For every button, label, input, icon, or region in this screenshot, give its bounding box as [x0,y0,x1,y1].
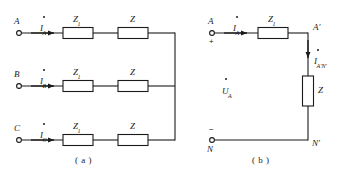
label-terminal-N-panel-b: N [207,145,213,154]
terminal-node-B[interactable] [17,84,22,89]
figure-root: A IA Z1 Z B IB Z1 Z C IC Z1 Z ( a ) A + [0,0,347,177]
terminal-node-A[interactable] [17,31,22,36]
impedance-box-Z-A [118,28,148,39]
phasor-dot-IC [43,123,45,125]
label-current-IB: IB [40,70,47,88]
terminal-node-A-panel-b[interactable] [210,31,215,36]
caption-panel-a: ( a ) [75,155,92,165]
label-current-IA-panel-b: IA [233,17,240,35]
label-current-IA: IA [40,17,47,35]
phasor-dot-IB [43,69,45,71]
label-branch-current: IA′N′ [314,50,327,68]
label-terminal-A-panel-b: A [208,17,214,26]
impedance-box-Z1-C [63,135,93,146]
impedance-box-Z-B [118,81,148,92]
impedance-box-Z1-A [63,28,93,39]
label-Z1-row-C: Z1 [73,122,81,133]
label-node-A-prime: A′ [313,23,320,32]
label-terminal-A: A [14,17,20,26]
label-voltage-UA: UA [222,80,232,98]
impedance-box-Z1-panel-b [258,28,288,39]
polarity-plus-sign: + [209,38,214,46]
label-node-N-prime: N′ [312,139,320,148]
circuit-schematic-svg [0,0,347,177]
terminal-node-N-panel-b[interactable] [210,138,215,143]
label-Z-row-A: Z [130,15,135,26]
caption-panel-b: ( b ) [252,155,270,165]
label-Z-row-B: Z [130,68,135,79]
label-terminal-B: B [14,70,20,79]
label-Z1-row-A: Z1 [73,15,81,26]
impedance-box-Z1-B [63,81,93,92]
label-current-IC: IC [40,124,47,142]
polarity-minus-sign: − [209,126,214,134]
impedance-box-Z-shunt [303,76,314,106]
phasor-dot-branch-current [317,49,319,51]
label-Z1-row-B: Z1 [73,68,81,79]
label-Z-row-C: Z [130,122,135,133]
label-terminal-C: C [14,124,20,133]
terminal-node-C[interactable] [17,138,22,143]
phasor-dot-IA-panel-b [236,16,238,18]
label-Z-shunt-panel-b: Z [318,86,323,97]
label-Z1-panel-b: Z1 [268,15,276,26]
impedance-box-Z-C [118,135,148,146]
phasor-dot-UA [225,78,227,80]
phasor-dot-IA [43,16,45,18]
